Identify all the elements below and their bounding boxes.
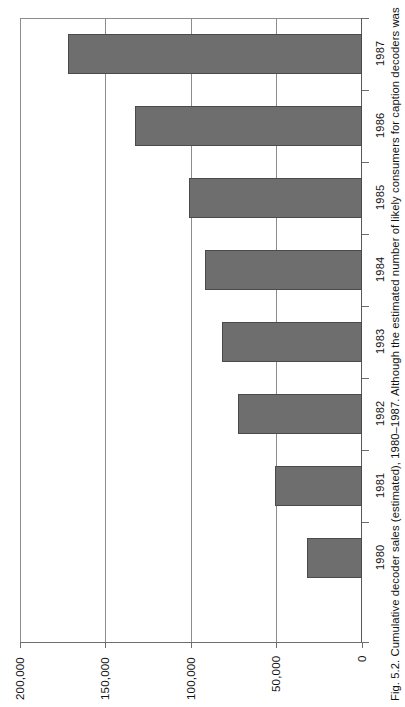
value-tick-label-200000: 200,000 [14,657,26,700]
category-tick-1984-1983 [362,306,369,307]
bar-1984 [205,250,362,290]
figure-container: 200,000 150,000 100,000 50,000 0 1987 19… [0,0,405,707]
category-label-1980: 1980 [374,545,386,570]
category-tick-bottom [362,642,369,643]
category-label-1983: 1983 [374,329,386,354]
bar-1985 [189,178,362,218]
category-label-1986: 1986 [374,113,386,138]
category-tick-1986-1985 [362,162,369,163]
bar-1982 [238,394,362,434]
bar-1980 [307,538,362,578]
value-tick-150000 [105,642,106,648]
category-tick-top [362,18,369,19]
value-tick-100000 [191,642,192,648]
category-tick-1983-1982 [362,378,369,379]
value-tick-label-0: 0 [356,655,368,662]
bar-1986 [135,106,362,146]
value-tick-label-150000: 150,000 [99,657,111,700]
value-tick-50000 [276,642,277,648]
category-tick-1987-1986 [362,90,369,91]
value-tick-200000 [20,642,21,648]
bar-1981 [275,466,362,506]
bar-1983 [222,322,362,362]
plot-area [20,18,362,642]
category-tick-1985-1984 [362,234,369,235]
category-tick-1982-1981 [362,450,369,451]
gridline-150000 [105,18,106,642]
figure-caption: Fig. 5.2. Cumulative decoder sales (esti… [389,7,401,701]
category-label-1981: 1981 [374,473,386,498]
bar-1987 [68,34,362,74]
category-label-1984: 1984 [374,257,386,282]
category-tick-1981-1980 [362,522,369,523]
category-label-1985: 1985 [374,185,386,210]
category-label-1987: 1987 [374,41,386,66]
gridline-200000 [20,18,21,642]
value-tick-label-100000: 100,000 [185,657,197,700]
category-label-1982: 1982 [374,401,386,426]
value-tick-label-50000: 50,000 [270,656,282,692]
